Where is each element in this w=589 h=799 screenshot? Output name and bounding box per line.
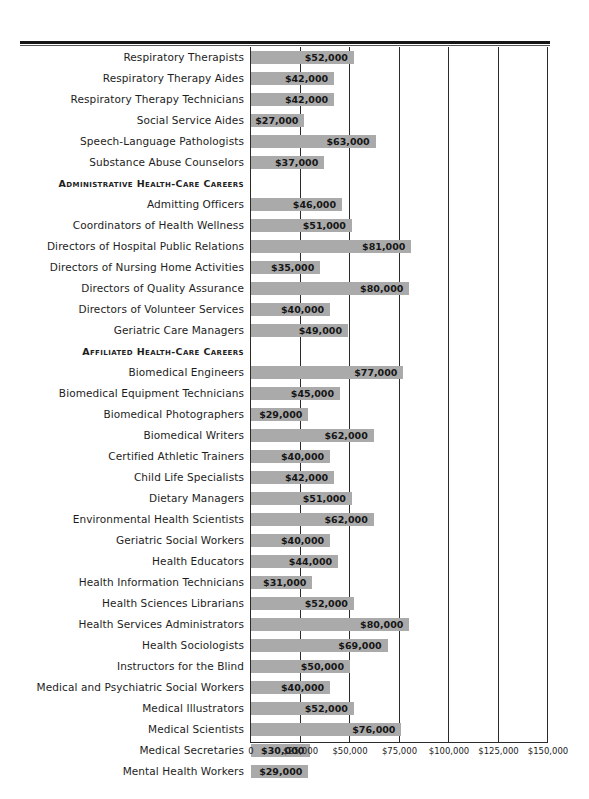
category-label: Dietary Managers: [149, 491, 244, 506]
category-label: Respiratory Therapy Aides: [103, 71, 244, 86]
x-tick-label-1: $25,000: [283, 745, 318, 757]
bar-row: Health Educators$44,000: [0, 551, 589, 572]
category-label: Biomedical Equipment Technicians: [59, 386, 244, 401]
bar-row: Medical Scientists$76,000: [0, 719, 589, 740]
category-label: Biomedical Writers: [143, 428, 244, 443]
bar-value-label: $49,000: [251, 324, 342, 337]
category-label: Medical and Psychiatric Social Workers: [37, 680, 244, 695]
x-tick-label-2: $50,000: [332, 745, 367, 757]
bar-value-label: $29,000: [251, 408, 302, 421]
bar-row: Health Information Technicians$31,000: [0, 572, 589, 593]
bar-row: Instructors for the Blind$50,000: [0, 656, 589, 677]
x-tick-label-0: 0: [248, 745, 253, 757]
bar-value-label: $51,000: [251, 492, 346, 505]
bar-value-label: $42,000: [251, 72, 328, 85]
category-label: Directors of Nursing Home Activities: [50, 260, 244, 275]
category-label: Environmental Health Scientists: [73, 512, 244, 527]
bar-value-label: $69,000: [251, 639, 382, 652]
category-label: Biomedical Engineers: [128, 365, 244, 380]
category-label: Child Life Specialists: [134, 470, 244, 485]
bar-value-label: $52,000: [251, 51, 348, 64]
category-label: Health Services Administrators: [79, 617, 244, 632]
bar-row: Geriatric Social Workers$40,000: [0, 530, 589, 551]
bar-value-label: $46,000: [251, 198, 336, 211]
bar-value-label: $77,000: [251, 366, 397, 379]
category-label: Coordinators of Health Wellness: [73, 218, 244, 233]
category-label: Health Information Technicians: [79, 575, 244, 590]
x-tick-label-3: $75,000: [382, 745, 417, 757]
x-tick-label-6: $150,000: [528, 745, 569, 757]
bar-row: Speech-Language Pathologists$63,000: [0, 131, 589, 152]
category-label: Geriatric Social Workers: [116, 533, 244, 548]
bar-row: Biomedical Writers$62,000: [0, 425, 589, 446]
section-header-label: Administrative Health-Care Careers: [59, 176, 244, 191]
bar-value-label: $51,000: [251, 219, 346, 232]
bar-row: Biomedical Photographers$29,000: [0, 404, 589, 425]
bar-value-label: $42,000: [251, 93, 328, 106]
bar-row: Directors of Volunteer Services$40,000: [0, 299, 589, 320]
bar-row: Geriatric Care Managers$49,000: [0, 320, 589, 341]
bar-row: Certified Athletic Trainers$40,000: [0, 446, 589, 467]
category-label: Directors of Volunteer Services: [78, 302, 244, 317]
category-label: Substance Abuse Counselors: [89, 155, 244, 170]
bar-value-label: $40,000: [251, 534, 324, 547]
category-label: Mental Health Workers: [123, 764, 244, 779]
bar-value-label: $37,000: [251, 156, 318, 169]
bar-row: Directors of Quality Assurance$80,000: [0, 278, 589, 299]
bar-row: Dietary Managers$51,000: [0, 488, 589, 509]
bar-row: Respiratory Therapy Technicians$42,000: [0, 89, 589, 110]
bar-value-label: $29,000: [251, 765, 302, 778]
bar-value-label: $80,000: [251, 618, 403, 631]
category-label: Medical Illustrators: [142, 701, 244, 716]
bar-value-label: $62,000: [251, 429, 368, 442]
bar-value-label: $52,000: [251, 597, 348, 610]
bar-row: Child Life Specialists$42,000: [0, 467, 589, 488]
bar-value-label: $62,000: [251, 513, 368, 526]
bar-value-label: $52,000: [251, 702, 348, 715]
chart-rows: Respiratory Therapists$52,000Respiratory…: [0, 47, 589, 782]
bar-row: Environmental Health Scientists$62,000: [0, 509, 589, 530]
bar-row: Medical and Psychiatric Social Workers$4…: [0, 677, 589, 698]
bar-row: Admitting Officers$46,000: [0, 194, 589, 215]
category-label: Respiratory Therapy Technicians: [71, 92, 244, 107]
category-label: Health Sociologists: [142, 638, 244, 653]
bar-row: Coordinators of Health Wellness$51,000: [0, 215, 589, 236]
category-label: Instructors for the Blind: [117, 659, 244, 674]
bar-row: Directors of Nursing Home Activities$35,…: [0, 257, 589, 278]
bar-value-label: $42,000: [251, 471, 328, 484]
bar-value-label: $35,000: [251, 261, 314, 274]
section-header-row: Affiliated Health-Care Careers: [0, 341, 589, 362]
bar-value-label: $31,000: [251, 576, 306, 589]
bar-row: Respiratory Therapy Aides$42,000: [0, 68, 589, 89]
category-label: Medical Scientists: [148, 722, 244, 737]
section-header-label: Affiliated Health-Care Careers: [82, 344, 244, 359]
bar-row: Respiratory Therapists$52,000: [0, 47, 589, 68]
bar-row: Substance Abuse Counselors$37,000: [0, 152, 589, 173]
bar-value-label: $45,000: [251, 387, 334, 400]
category-label: Directors of Quality Assurance: [81, 281, 244, 296]
category-label: Biomedical Photographers: [103, 407, 244, 422]
bar-value-label: $50,000: [251, 660, 344, 673]
bar-row: Directors of Hospital Public Relations$8…: [0, 236, 589, 257]
bar-row: Mental Health Workers$29,000: [0, 761, 589, 782]
bar-value-label: $80,000: [251, 282, 403, 295]
bar-row: Social Service Aides$27,000: [0, 110, 589, 131]
bar-row: Health Sciences Librarians$52,000: [0, 593, 589, 614]
bar-value-label: $76,000: [251, 723, 395, 736]
bar-value-label: $81,000: [251, 240, 405, 253]
x-axis-tick-labels: 0$25,000$50,000$75,000$100,000$125,000$1…: [0, 745, 589, 761]
section-header-row: Administrative Health-Care Careers: [0, 173, 589, 194]
bar-value-label: $27,000: [251, 114, 298, 127]
bar-value-label: $44,000: [251, 555, 332, 568]
category-label: Directors of Hospital Public Relations: [47, 239, 244, 254]
category-label: Health Educators: [152, 554, 244, 569]
top-rule-thick: [20, 41, 550, 44]
category-label: Respiratory Therapists: [123, 50, 244, 65]
salary-bar-chart: Respiratory Therapists$52,000Respiratory…: [0, 0, 589, 799]
bar-row: Health Sociologists$69,000: [0, 635, 589, 656]
bar-value-label: $63,000: [251, 135, 370, 148]
bar-row: Health Services Administrators$80,000: [0, 614, 589, 635]
top-rule-thin: [20, 45, 550, 46]
x-tick-label-4: $100,000: [429, 745, 470, 757]
category-label: Speech-Language Pathologists: [80, 134, 244, 149]
